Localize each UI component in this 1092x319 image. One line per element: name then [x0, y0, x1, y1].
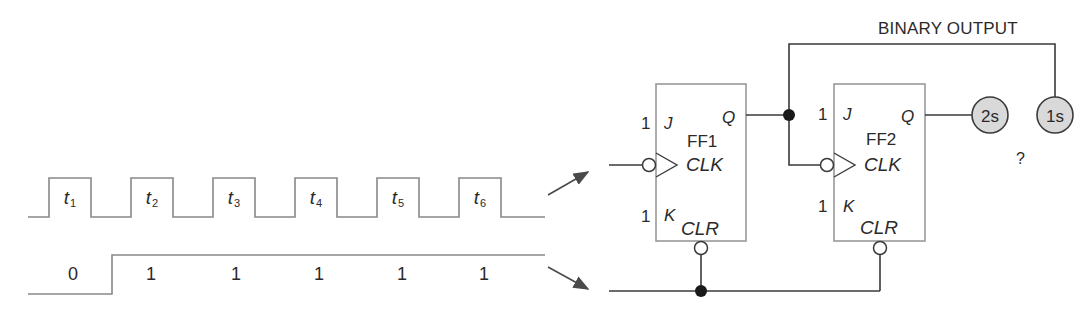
ff2-q-pin: Q	[901, 108, 914, 125]
ff1-name: FF1	[687, 133, 717, 150]
ff1-j-input-value: 1	[641, 115, 650, 132]
arrow-to-clk	[548, 172, 588, 195]
clear-value-label: 0	[68, 265, 78, 283]
arrow-to-clr	[548, 267, 588, 289]
ff2-clk-bubble	[821, 159, 834, 172]
clock-pulse-label: t2	[146, 188, 158, 209]
output-1s-label: 1s	[1046, 108, 1064, 125]
ff1-q-pin: Q	[722, 109, 735, 126]
ff1-j-pin: J	[664, 115, 673, 132]
circuit-diagram	[0, 0, 1092, 319]
q1-junction-dot	[783, 109, 795, 121]
clock-pulse-label: t5	[392, 188, 404, 209]
clear-value-label: 1	[314, 265, 324, 283]
ff2-j-input-value: 1	[818, 106, 827, 123]
ff1-k-input-value: 1	[641, 208, 650, 225]
clear-waveform	[28, 255, 545, 294]
clock-pulse-label: t4	[310, 188, 322, 209]
clock-waveform	[28, 178, 545, 217]
ff2-clk-pin: CLK	[864, 155, 901, 174]
clear-value-label: 1	[146, 265, 156, 283]
ff1-clk-bubble	[643, 159, 656, 172]
clear-value-label: 1	[397, 265, 407, 283]
ff1-clk-pin: CLK	[686, 155, 723, 174]
clear-value-label: 1	[231, 265, 241, 283]
ff2-name: FF2	[866, 131, 896, 148]
clock-pulse-label: t3	[228, 188, 240, 209]
ff2-clr-bubble	[874, 242, 887, 255]
ff1-clr-bubble	[695, 242, 708, 255]
ff2-clr-pin: CLR	[860, 218, 898, 237]
clock-pulse-label: t6	[474, 188, 486, 209]
unknown-output-question-mark: ?	[1016, 151, 1025, 167]
output-2s-label: 2s	[981, 108, 999, 125]
ff2-j-pin: J	[843, 106, 852, 123]
clr-junction-dot	[695, 285, 707, 297]
ff1-k-pin: K	[664, 207, 675, 224]
ff1-clr-pin: CLR	[681, 219, 719, 238]
clock-pulse-label: t1	[64, 188, 76, 209]
ff2-k-pin: K	[843, 198, 854, 215]
binary-output-title: BINARY OUTPUT	[878, 20, 1018, 37]
ff2-k-input-value: 1	[818, 198, 827, 215]
clear-value-label: 1	[479, 265, 489, 283]
